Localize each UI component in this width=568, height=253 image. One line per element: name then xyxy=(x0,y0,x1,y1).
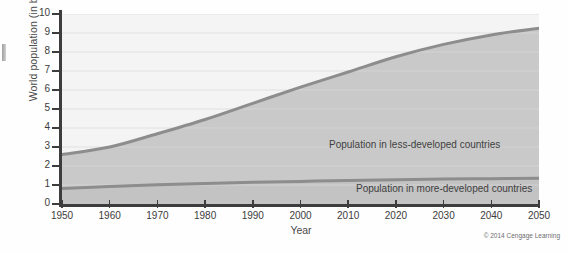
chart-plot-svg xyxy=(62,14,539,204)
y-tick-label: 5 xyxy=(34,102,50,113)
x-tick-label: 1960 xyxy=(90,210,130,221)
y-tick-mark xyxy=(52,108,60,110)
y-tick-label: 4 xyxy=(34,121,50,132)
y-tick-label: 8 xyxy=(34,45,50,56)
y-tick-mark xyxy=(52,203,60,205)
x-tick-label: 2020 xyxy=(376,210,416,221)
annotation-more-developed: Population in more-developed countries xyxy=(356,183,532,194)
population-chart-figure: World population (in billions) 012345678… xyxy=(0,0,568,253)
y-tick-mark xyxy=(52,13,60,15)
copyright-notice: © 2014 Cengage Learning xyxy=(484,232,560,239)
y-tick-mark xyxy=(52,127,60,129)
page-edge-artifact xyxy=(2,44,6,61)
x-tick-mark xyxy=(61,200,63,208)
annotation-less-developed: Population in less-developed countries xyxy=(329,139,500,150)
x-tick-mark xyxy=(204,200,206,208)
x-tick-mark xyxy=(109,200,111,208)
x-tick-mark xyxy=(443,200,445,208)
x-tick-label: 1980 xyxy=(185,210,225,221)
plot-area xyxy=(62,14,539,204)
x-tick-mark xyxy=(347,200,349,208)
y-tick-label: 6 xyxy=(34,83,50,94)
y-tick-label: 1 xyxy=(34,178,50,189)
y-tick-label: 2 xyxy=(34,159,50,170)
y-tick-mark xyxy=(52,184,60,186)
y-tick-mark xyxy=(52,89,60,91)
y-tick-mark xyxy=(52,146,60,148)
x-tick-label: 2010 xyxy=(328,210,368,221)
x-tick-label: 1990 xyxy=(233,210,273,221)
x-tick-mark xyxy=(538,200,540,208)
x-tick-label: 2000 xyxy=(281,210,321,221)
x-tick-label: 2030 xyxy=(424,210,464,221)
y-tick-label: 7 xyxy=(34,64,50,75)
x-tick-mark xyxy=(300,200,302,208)
y-tick-label: 9 xyxy=(34,26,50,37)
x-tick-label: 2040 xyxy=(471,210,511,221)
y-tick-label: 3 xyxy=(34,140,50,151)
y-tick-mark xyxy=(52,165,60,167)
y-tick-mark xyxy=(52,70,60,72)
y-tick-label: 0 xyxy=(34,197,50,208)
y-tick-mark xyxy=(52,51,60,53)
x-tick-mark xyxy=(157,200,159,208)
x-tick-mark xyxy=(491,200,493,208)
x-tick-label: 1970 xyxy=(137,210,177,221)
y-tick-label: 10 xyxy=(34,7,50,18)
x-tick-mark xyxy=(252,200,254,208)
y-tick-mark xyxy=(52,32,60,34)
x-tick-mark xyxy=(395,200,397,208)
x-tick-label: 1950 xyxy=(42,210,82,221)
x-tick-label: 2050 xyxy=(519,210,559,221)
